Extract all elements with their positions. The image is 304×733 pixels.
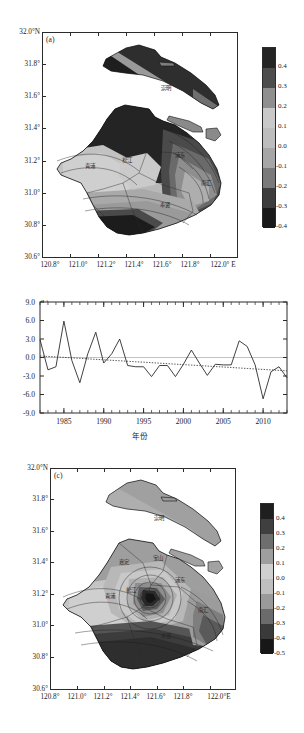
colorbar-band bbox=[263, 68, 275, 88]
panel-c-colorbar-label-8: -0.4 bbox=[274, 635, 285, 642]
region-label-fengxian: 奉贤 bbox=[160, 201, 170, 209]
panel-a-ytick-6: 30.8° bbox=[0, 222, 40, 229]
panel-c-colorbar-label-1: 0.3 bbox=[276, 530, 285, 537]
panel-c-xtick-6: 122.0°E bbox=[194, 694, 244, 701]
panel-a-colorbar-label-8: -0.4 bbox=[276, 223, 287, 230]
panel-a-colorbar-label-4: 0.0 bbox=[278, 143, 287, 150]
panel-b-xaxis-label: 年份 bbox=[100, 430, 180, 441]
colorbar-band bbox=[263, 168, 275, 188]
colorbar-band bbox=[263, 148, 275, 168]
colorbar-band bbox=[261, 504, 273, 519]
panel-b-ytick-label: -3.0 bbox=[23, 372, 35, 381]
colorbar-band bbox=[261, 534, 273, 549]
panel-c-colorbar-label-7: -0.3 bbox=[274, 620, 285, 627]
region-label-jiading: 嘉定 bbox=[107, 129, 117, 137]
region-label-songjiang: 松江 bbox=[126, 586, 136, 594]
panel-b-ytick-label: -9.0 bbox=[23, 409, 35, 418]
panel-b-xtick-label: 2005 bbox=[216, 417, 231, 426]
colorbar-band bbox=[261, 519, 273, 534]
panel-b-ytick-label: 0.0 bbox=[26, 353, 36, 362]
panel-a-colorbar-label-3: 0.1 bbox=[278, 123, 287, 130]
panel-c-colorbar-label-5: -0.1 bbox=[274, 590, 285, 597]
panel-a-colorbar-label-2: 0.2 bbox=[278, 103, 287, 110]
region-label-songjiang: 松江 bbox=[122, 156, 132, 164]
panel-c-colorbar-label-4: 0.0 bbox=[276, 575, 285, 582]
region-label-nanhui: 南汇 bbox=[198, 606, 208, 614]
panel-b-xtick-label: 1990 bbox=[96, 417, 111, 426]
region-label-baoshan: 宝山 bbox=[148, 123, 158, 131]
panel-b-ytick-label: 3.0 bbox=[26, 335, 36, 344]
panel-c-colorbar bbox=[260, 503, 274, 653]
panel-c-ytick-1: 31.8° bbox=[8, 496, 48, 503]
colorbar-band bbox=[261, 594, 273, 609]
region-label-fengxian: 奉贤 bbox=[161, 632, 171, 640]
panel-a-ytick-0: 32.0°N bbox=[0, 29, 40, 36]
region-label-chongming: 崇明 bbox=[154, 514, 164, 522]
panel-b-xtick-label: 1995 bbox=[136, 417, 151, 426]
colorbar-band bbox=[261, 564, 273, 579]
panel-b-ytick-label: 6.0 bbox=[26, 316, 36, 325]
region-label-pudong: 浦东 bbox=[175, 151, 185, 159]
panel-c-map-graphic bbox=[51, 469, 235, 689]
panel-a-ytick-2: 31.6° bbox=[0, 93, 40, 100]
colorbar-band bbox=[261, 549, 273, 564]
panel-c-colorbar-label-9: -0.5 bbox=[274, 650, 285, 657]
panel-c-colorbar-label-3: 0.1 bbox=[276, 560, 285, 567]
panel-b-xtick-label: 2000 bbox=[176, 417, 191, 426]
panel-a-colorbar-label-6: -0.2 bbox=[276, 183, 287, 190]
colorbar-band bbox=[263, 88, 275, 108]
colorbar-band bbox=[263, 208, 275, 228]
colorbar-band bbox=[261, 639, 273, 654]
region-label-qingpu: 青浦 bbox=[85, 162, 95, 170]
region-label-qingpu: 青浦 bbox=[105, 592, 115, 600]
region-label-pudong: 浦东 bbox=[175, 576, 185, 584]
panel-c-map: (c) 32.0°N 31.8° 31.6° 31.4° 31.2° 31.0°… bbox=[0, 460, 304, 733]
panel-a-map: (a) 32.0°N 31.8° 31.6° 31.4° 31.2° 31.0°… bbox=[0, 0, 304, 285]
panel-a-map-graphic bbox=[43, 33, 237, 257]
panel-c-ytick-4: 31.2° bbox=[8, 591, 48, 598]
panel-a-xtick-6: 122.0° E bbox=[198, 262, 248, 269]
colorbar-band bbox=[261, 624, 273, 639]
panel-a-colorbar bbox=[262, 47, 276, 227]
panel-c-colorbar-label-6: -0.2 bbox=[274, 605, 285, 612]
panel-a-ytick-3: 31.4° bbox=[0, 125, 40, 132]
panel-a-ytick-1: 31.8° bbox=[0, 61, 40, 68]
panel-b-xtick-label: 1985 bbox=[56, 417, 71, 426]
panel-a-colorbar-label-7: -0.3 bbox=[276, 203, 287, 210]
panel-c-colorbar-label-0: 0.4 bbox=[276, 515, 285, 522]
panel-b-xtick-label: 2010 bbox=[256, 417, 271, 426]
panel-a-colorbar-label-5: -0.1 bbox=[276, 163, 287, 170]
colorbar-band bbox=[263, 108, 275, 128]
colorbar-band bbox=[261, 579, 273, 594]
panel-a-colorbar-label-0: 0.4 bbox=[278, 63, 287, 70]
region-label-jiading: 嘉定 bbox=[119, 558, 129, 566]
panel-a-ytick-7: 30.6° bbox=[0, 254, 40, 261]
panel-c-ytick-2: 31.6° bbox=[8, 528, 48, 535]
panel-c-colorbar-label-2: 0.2 bbox=[276, 545, 285, 552]
colorbar-band bbox=[263, 128, 275, 148]
colorbar-band bbox=[263, 48, 275, 68]
region-label-baoshan: 宝山 bbox=[153, 554, 163, 562]
panel-a-colorbar-label-1: 0.3 bbox=[278, 83, 287, 90]
panel-c-ytick-0: 32.0°N bbox=[8, 465, 48, 472]
region-label-nanhui: 南汇 bbox=[201, 179, 211, 187]
panel-b-ytick-label: -6.0 bbox=[23, 390, 35, 399]
panel-c-ytick-6: 30.8° bbox=[8, 654, 48, 661]
region-label-chongming: 崇明 bbox=[161, 84, 171, 92]
panel-b-timeseries: (b) -9.0-6.0-3.00.03.06.09.0198519901995… bbox=[0, 290, 304, 460]
panel-c-ytick-5: 31.0° bbox=[8, 622, 48, 629]
panel-a-ytick-5: 31.0° bbox=[0, 190, 40, 197]
colorbar-band bbox=[261, 609, 273, 624]
panel-c-ytick-3: 31.4° bbox=[8, 559, 48, 566]
panel-b-ytick-label: 9.0 bbox=[26, 298, 36, 307]
panel-a-ytick-4: 31.2° bbox=[0, 158, 40, 165]
colorbar-band bbox=[263, 188, 275, 208]
